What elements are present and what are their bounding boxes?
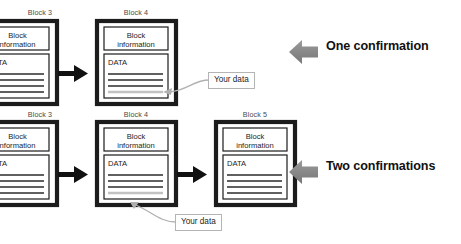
block-info-line2: nformation bbox=[0, 40, 35, 49]
two-confirmations-label: Two confirmations bbox=[326, 159, 435, 173]
flow-arrow-row2-b3-b4 bbox=[58, 166, 88, 183]
block-label-row2-block4: Block 4 bbox=[106, 110, 166, 119]
block-info-line2: information bbox=[117, 141, 155, 150]
block-info-row2-block5: Block information bbox=[223, 132, 287, 151]
block-label-row1-block3: Block 3 bbox=[10, 8, 70, 17]
block-data-label-row2-block3: TA bbox=[0, 159, 7, 168]
block-info-row1-block4: Block information bbox=[104, 31, 168, 50]
callout-your-data-row1: Your data bbox=[208, 72, 255, 89]
callout-your-data-row2: Your data bbox=[175, 214, 222, 231]
blockchain-confirmation-diagram: Block 3 Block nformation TA Block 4 Bloc… bbox=[0, 0, 461, 244]
block-data-label-row2-block5: DATA bbox=[227, 159, 246, 168]
block-data-label-row1-block4: DATA bbox=[108, 58, 127, 67]
block-info-line1: Block bbox=[127, 31, 146, 40]
block-info-line1: Block bbox=[8, 31, 27, 40]
block-data-label-row2-block4: DATA bbox=[108, 159, 127, 168]
diagram-canvas bbox=[0, 0, 461, 244]
block-label-row1-block4: Block 4 bbox=[106, 8, 166, 17]
block-info-row2-block3: Block nformation bbox=[0, 132, 55, 151]
block-info-line1: Block bbox=[127, 132, 146, 141]
flow-arrow-row1-b3-b4 bbox=[58, 65, 88, 82]
one-confirmation-arrow-icon bbox=[289, 40, 318, 64]
block-info-line2: information bbox=[117, 40, 155, 49]
block-data-label-row1-block3: TA bbox=[0, 58, 7, 67]
flow-arrow-row2-b4-b5 bbox=[177, 166, 207, 183]
block-info-row2-block4: Block information bbox=[104, 132, 168, 151]
block-info-line2: nformation bbox=[0, 141, 35, 150]
block-label-row2-block3: Block 3 bbox=[10, 110, 70, 119]
block-info-line1: Block bbox=[8, 132, 27, 141]
block-info-line2: information bbox=[236, 141, 274, 150]
one-confirmation-label: One confirmation bbox=[326, 39, 429, 53]
block-info-row1-block3: Block nformation bbox=[0, 31, 55, 50]
block-info-line1: Block bbox=[246, 132, 265, 141]
block-label-row2-block5: Block 5 bbox=[225, 110, 285, 119]
